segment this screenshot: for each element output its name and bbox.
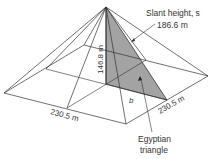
pyramid-diagram: Slant height, s 186.6 m 146.8 m b 230.5 … [0, 0, 214, 159]
height-label: 146.8 m [96, 45, 105, 74]
egyptian-triangle-label-2: triangle [140, 145, 168, 155]
slant-arrowhead [131, 38, 135, 42]
half-base-label: b [129, 96, 134, 105]
egyptian-triangle-label-1: Egyptian [138, 134, 171, 144]
slant-height-title: Slant height, s [146, 8, 200, 18]
slant-height-value: 186.6 m [157, 20, 188, 30]
base-left-label: 230.5 m [49, 107, 80, 123]
